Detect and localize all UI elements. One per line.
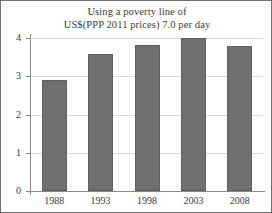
- x-tick-label: 1993: [78, 195, 124, 206]
- chart-title-line-2: US$(PPP 2011 prices) 7.0 per day: [1, 19, 272, 32]
- plot-area: [31, 38, 263, 191]
- chart-title-line-1: Using a poverty line of: [1, 6, 272, 19]
- bar[interactable]: [135, 45, 160, 191]
- y-tick-label: 1: [1, 148, 21, 158]
- x-tick-label: 2008: [217, 195, 263, 206]
- y-tick-mark: [26, 76, 31, 77]
- x-tick-label: 2003: [170, 195, 216, 206]
- y-tick-mark: [26, 153, 31, 154]
- y-tick-mark: [26, 38, 31, 39]
- bar[interactable]: [181, 38, 206, 191]
- chart-title: Using a poverty line of US$(PPP 2011 pri…: [1, 6, 272, 31]
- bar[interactable]: [227, 46, 252, 191]
- x-tick-label: 1998: [124, 195, 170, 206]
- gridline: [31, 38, 263, 39]
- x-tick-label: 1988: [31, 195, 77, 206]
- bar-chart-figure: Using a poverty line of US$(PPP 2011 pri…: [0, 0, 272, 213]
- y-tick-mark: [26, 115, 31, 116]
- y-tick-mark: [26, 191, 31, 192]
- y-tick-label: 3: [1, 71, 21, 81]
- bar[interactable]: [88, 54, 113, 191]
- y-tick-label: 2: [1, 110, 21, 120]
- y-tick-label: 4: [1, 33, 21, 43]
- y-tick-label: 0: [1, 186, 21, 196]
- bar[interactable]: [42, 80, 67, 191]
- x-axis-line: [27, 191, 265, 192]
